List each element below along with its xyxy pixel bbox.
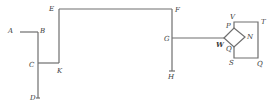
circuit-diagram: A B C D E K F G H W P N Q V T S Q bbox=[0, 0, 277, 109]
label-s: S bbox=[229, 59, 234, 67]
label-p: P bbox=[225, 22, 231, 30]
label-n: N bbox=[246, 33, 254, 41]
label-e: E bbox=[48, 5, 54, 13]
outer-loop bbox=[234, 22, 258, 58]
label-k: K bbox=[56, 67, 63, 75]
label-h: H bbox=[167, 73, 175, 81]
label-d: D bbox=[29, 94, 36, 102]
label-f: F bbox=[174, 6, 181, 14]
label-q-outer: Q bbox=[257, 60, 263, 68]
label-c: C bbox=[29, 61, 35, 69]
label-q-inner: Q bbox=[226, 45, 232, 53]
label-v: V bbox=[230, 13, 236, 21]
label-b: B bbox=[39, 27, 45, 35]
label-t: T bbox=[261, 18, 267, 26]
label-a: A bbox=[7, 27, 13, 35]
label-g: G bbox=[164, 35, 170, 43]
label-w: W bbox=[216, 40, 225, 49]
